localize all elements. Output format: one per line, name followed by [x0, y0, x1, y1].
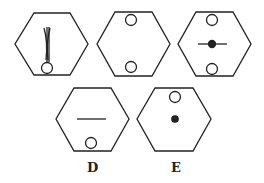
circle-icon — [86, 138, 97, 149]
hexagon-e — [137, 88, 211, 151]
dot-icon — [209, 41, 216, 48]
circle-icon — [126, 15, 137, 26]
circle-icon — [207, 15, 218, 26]
hexagon-3 — [178, 12, 251, 76]
circle-icon — [170, 92, 181, 103]
hexagon-d — [56, 88, 129, 151]
circle-icon — [42, 63, 53, 74]
dot-icon — [172, 116, 178, 122]
label-d: D — [87, 160, 98, 175]
hexagon-puzzle-figure — [0, 0, 264, 183]
hexagon-2 — [97, 12, 170, 76]
circle-icon — [207, 64, 218, 75]
label-e: E — [171, 160, 181, 175]
hexagon-1 — [15, 13, 88, 75]
circle-icon — [126, 62, 137, 73]
